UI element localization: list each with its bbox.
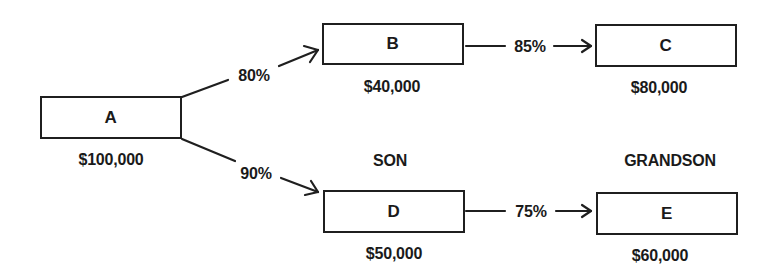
edge-a-d-label: 90% [240,166,271,182]
node-b-label: B [387,34,400,54]
node-c-label: C [660,36,673,56]
node-c: C [595,24,737,67]
node-e-label: E [661,204,673,224]
son-label: SON [373,153,407,169]
edge-a-d-line-1 [182,139,235,161]
node-b: B [322,23,464,65]
node-d: D [323,190,465,233]
node-c-value: $80,000 [631,80,687,96]
node-a: A [40,96,182,139]
ownership-diagram: A $100,000 B $40,000 C $80,000 SON D $50… [0,0,768,275]
node-a-value: $100,000 [78,152,143,168]
node-d-label: D [388,202,401,222]
node-e-value: $60,000 [632,248,688,264]
edge-b-c-label: 85% [514,39,545,55]
edge-a-b-label: 80% [238,68,269,84]
node-a-label: A [105,108,118,128]
node-e: E [596,192,738,235]
node-d-value: $50,000 [366,246,422,262]
grandson-label: GRANDSON [624,153,716,169]
edge-a-b-line-1 [182,80,228,97]
node-b-value: $40,000 [364,79,420,95]
edge-d-e-label: 75% [515,204,546,220]
